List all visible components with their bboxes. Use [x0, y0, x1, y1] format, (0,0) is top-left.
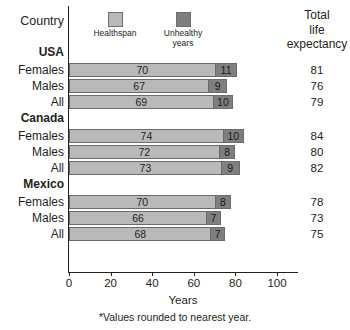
row-total-life-expectancy: 81 — [286, 62, 348, 78]
chart-legend: Healthspan Unhealthy years — [88, 12, 210, 48]
row-total-life-expectancy: 75 — [286, 226, 348, 242]
chart-data-row: All691079 — [0, 94, 350, 110]
bar-segment-unhealthy-years: 9 — [208, 79, 227, 93]
legend-swatch-unhealthy-years — [176, 12, 191, 27]
bar-segment-unhealthy-years: 11 — [215, 63, 238, 77]
country-group-row: USA — [0, 44, 350, 60]
stacked-bar: 7011 — [69, 63, 237, 77]
row-category-label: Females — [0, 62, 64, 78]
bar-segment-healthspan: 72 — [69, 145, 219, 159]
bar-value-unhealthy-years: 9 — [227, 163, 233, 174]
row-total-life-expectancy: 79 — [286, 94, 348, 110]
bar-value-healthspan: 74 — [141, 131, 153, 142]
stacked-bar: 667 — [69, 211, 221, 225]
row-total-life-expectancy: 82 — [286, 160, 348, 176]
row-total-life-expectancy: 80 — [286, 144, 348, 160]
chart-data-row: Females701181 — [0, 62, 350, 78]
stacked-bar: 7410 — [69, 129, 244, 143]
bar-value-unhealthy-years: 10 — [217, 97, 229, 108]
bar-segment-unhealthy-years: 7 — [206, 211, 221, 225]
row-total-life-expectancy: 73 — [286, 210, 348, 226]
legend-label-unhealthy-line1: Unhealthy — [164, 28, 202, 38]
bar-value-healthspan: 69 — [135, 97, 147, 108]
bar-value-unhealthy-years: 8 — [220, 197, 226, 208]
bar-value-unhealthy-years: 8 — [224, 147, 230, 158]
row-category-label: All — [0, 160, 64, 176]
row-total-life-expectancy: 84 — [286, 128, 348, 144]
bar-value-healthspan: 70 — [136, 65, 148, 76]
bar-segment-healthspan: 73 — [69, 161, 221, 175]
x-axis-tick-label: 60 — [179, 277, 209, 289]
bar-segment-healthspan: 70 — [69, 63, 215, 77]
x-axis-tick-label: 20 — [96, 277, 126, 289]
x-axis-tick — [194, 272, 195, 276]
row-category-label: All — [0, 226, 64, 242]
chart-footnote: *Values rounded to nearest year. — [30, 311, 320, 323]
bar-segment-unhealthy-years: 7 — [210, 227, 225, 241]
bar-value-healthspan: 66 — [132, 213, 144, 224]
header-total-line2: life — [286, 23, 348, 38]
x-axis-tick — [69, 272, 70, 276]
stacked-bar: 739 — [69, 161, 240, 175]
row-category-label: Females — [0, 128, 64, 144]
bar-value-unhealthy-years: 10 — [227, 131, 239, 142]
row-category-label: Males — [0, 210, 64, 226]
bar-value-healthspan: 70 — [136, 197, 148, 208]
healthspan-chart: Country Healthspan Unhealthy years Total… — [0, 0, 350, 330]
country-group-label: Mexico — [0, 176, 64, 192]
bar-value-unhealthy-years: 7 — [215, 229, 221, 240]
x-axis-line — [68, 272, 298, 273]
bar-value-healthspan: 68 — [134, 229, 146, 240]
bar-value-healthspan: 73 — [140, 163, 152, 174]
x-axis-tick — [111, 272, 112, 276]
legend-swatch-healthspan — [108, 12, 123, 27]
legend-label-healthspan: Healthspan — [88, 29, 142, 39]
country-group-label: USA — [0, 44, 64, 60]
chart-data-row: All73982 — [0, 160, 350, 176]
bar-segment-healthspan: 69 — [69, 95, 213, 109]
row-category-label: All — [0, 94, 64, 110]
chart-data-row: Males67976 — [0, 78, 350, 94]
legend-item-healthspan: Healthspan — [88, 12, 142, 48]
bar-value-healthspan: 67 — [133, 81, 145, 92]
stacked-bar: 708 — [69, 195, 231, 209]
chart-data-row: All68775 — [0, 226, 350, 242]
country-group-label: Canada — [0, 110, 64, 126]
chart-data-row: Males72880 — [0, 144, 350, 160]
x-axis-title: Years — [68, 294, 298, 306]
header-total-line1: Total — [286, 8, 348, 23]
bar-segment-healthspan: 74 — [69, 129, 223, 143]
x-axis-tick-label: 100 — [262, 277, 292, 289]
bar-value-unhealthy-years: 11 — [221, 65, 232, 76]
bar-segment-healthspan: 70 — [69, 195, 215, 209]
bar-segment-healthspan: 68 — [69, 227, 210, 241]
chart-data-row: Males66773 — [0, 210, 350, 226]
bar-segment-unhealthy-years: 9 — [221, 161, 240, 175]
stacked-bar: 679 — [69, 79, 227, 93]
bar-value-unhealthy-years: 7 — [211, 213, 217, 224]
stacked-bar: 728 — [69, 145, 235, 159]
row-category-label: Males — [0, 144, 64, 160]
stacked-bar: 687 — [69, 227, 225, 241]
legend-item-unhealthy-years: Unhealthy years — [156, 12, 210, 48]
row-total-life-expectancy: 78 — [286, 194, 348, 210]
chart-data-row: Females70878 — [0, 194, 350, 210]
chart-data-row: Females741084 — [0, 128, 350, 144]
x-axis-tick-label: 40 — [137, 277, 167, 289]
country-group-row: Canada — [0, 110, 350, 126]
x-axis-tick-label: 80 — [220, 277, 250, 289]
x-axis-tick — [277, 272, 278, 276]
bar-segment-unhealthy-years: 10 — [213, 95, 234, 109]
bar-value-unhealthy-years: 9 — [215, 81, 221, 92]
bar-segment-unhealthy-years: 8 — [215, 195, 232, 209]
country-group-row: Mexico — [0, 176, 350, 192]
row-category-label: Females — [0, 194, 64, 210]
stacked-bar: 6910 — [69, 95, 233, 109]
x-axis-tick — [235, 272, 236, 276]
bar-segment-unhealthy-years: 10 — [223, 129, 244, 143]
bar-segment-healthspan: 67 — [69, 79, 208, 93]
x-axis-tick-label: 0 — [54, 277, 84, 289]
bar-segment-unhealthy-years: 8 — [219, 145, 236, 159]
row-total-life-expectancy: 76 — [286, 78, 348, 94]
row-category-label: Males — [0, 78, 64, 94]
